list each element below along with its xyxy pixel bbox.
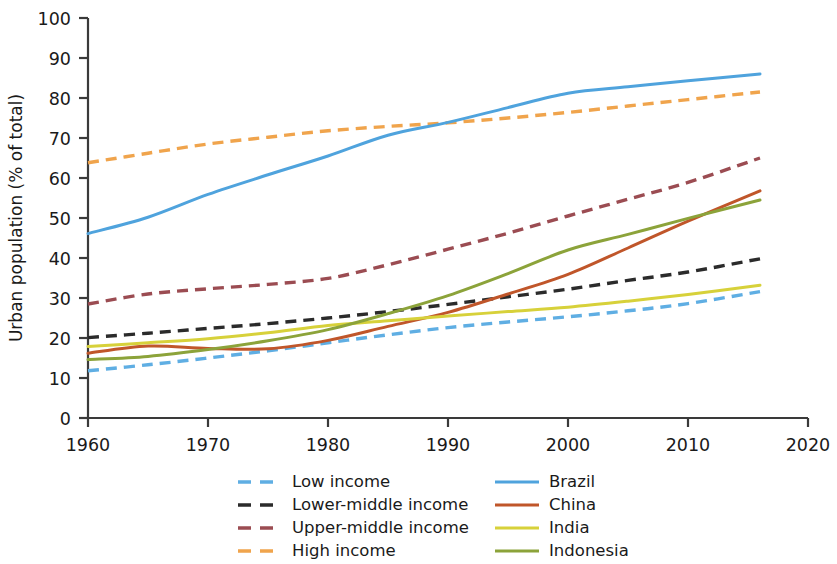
x-tick-label: 1960 bbox=[66, 435, 111, 455]
legend-label: Brazil bbox=[549, 472, 595, 491]
legend-label: Low income bbox=[292, 472, 390, 491]
legend-label: Upper-middle income bbox=[292, 518, 469, 537]
series-line-upper-middle-income bbox=[88, 158, 760, 304]
y-axis-label: Urban population (% of total) bbox=[6, 94, 26, 342]
chart-canvas: 0102030405060708090100196019701980199020… bbox=[0, 0, 837, 564]
x-tick-label: 1990 bbox=[426, 435, 471, 455]
legend-item-indonesia[interactable]: Indonesia bbox=[495, 541, 629, 560]
legend-item-lower-middle-income[interactable]: Lower-middle income bbox=[238, 495, 468, 514]
y-tick-label: 40 bbox=[49, 249, 71, 269]
y-tick-label: 80 bbox=[49, 89, 71, 109]
y-axis-title: Urban population (% of total) bbox=[6, 94, 26, 342]
y-tick-label: 70 bbox=[49, 129, 71, 149]
series-line-brazil bbox=[88, 74, 760, 234]
y-tick-label: 0 bbox=[60, 409, 71, 429]
legend-item-high-income[interactable]: High income bbox=[238, 541, 396, 560]
urban-population-line-chart: 0102030405060708090100196019701980199020… bbox=[0, 0, 837, 564]
chart-series-lines bbox=[88, 74, 760, 371]
legend-label: Indonesia bbox=[549, 541, 629, 560]
x-tick-label: 1970 bbox=[186, 435, 231, 455]
legend-item-china[interactable]: China bbox=[495, 495, 596, 514]
legend-item-brazil[interactable]: Brazil bbox=[495, 472, 595, 491]
x-tick-label: 1980 bbox=[306, 435, 351, 455]
series-line-china bbox=[88, 191, 760, 353]
legend-item-low-income[interactable]: Low income bbox=[238, 472, 390, 491]
y-tick-label: 90 bbox=[49, 49, 71, 69]
y-tick-label: 20 bbox=[49, 329, 71, 349]
series-line-indonesia bbox=[88, 200, 760, 360]
legend-item-upper-middle-income[interactable]: Upper-middle income bbox=[238, 518, 469, 537]
series-line-india bbox=[88, 285, 760, 346]
legend-label: China bbox=[549, 495, 596, 514]
y-tick-label: 100 bbox=[38, 9, 71, 29]
x-tick-label: 2010 bbox=[666, 435, 711, 455]
legend-item-india[interactable]: India bbox=[495, 518, 590, 537]
x-tick-label: 2000 bbox=[546, 435, 591, 455]
legend-label: Lower-middle income bbox=[292, 495, 468, 514]
chart-tick-labels: 0102030405060708090100196019701980199020… bbox=[38, 9, 831, 456]
chart-legend: Low incomeLower-middle incomeUpper-middl… bbox=[238, 472, 629, 560]
y-tick-label: 30 bbox=[49, 289, 71, 309]
legend-label: High income bbox=[292, 541, 396, 560]
y-tick-label: 60 bbox=[49, 169, 71, 189]
x-tick-label: 2020 bbox=[786, 435, 831, 455]
legend-label: India bbox=[549, 518, 590, 537]
y-tick-label: 10 bbox=[49, 369, 71, 389]
y-tick-label: 50 bbox=[49, 209, 71, 229]
